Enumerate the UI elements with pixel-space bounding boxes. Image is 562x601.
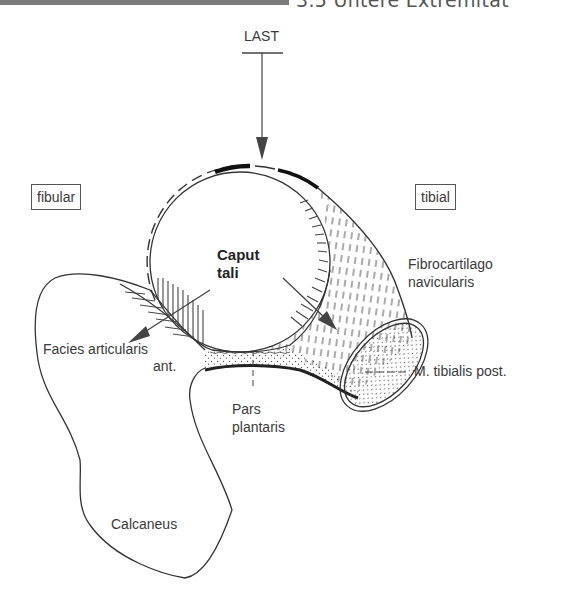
load-label: LAST bbox=[244, 28, 279, 45]
load-arrow bbox=[242, 53, 283, 160]
tibialis-label: M. tibialis post. bbox=[414, 363, 507, 380]
calcaneus-label: Calcaneus bbox=[111, 516, 177, 533]
tibial-side-label: tibial bbox=[415, 184, 456, 210]
talus-joint-diagram bbox=[0, 0, 562, 601]
fibular-side-label: fibular bbox=[31, 184, 81, 210]
fibrocartilago-label-line2: navicularis bbox=[408, 274, 474, 291]
facies-articularis-label-line1: Facies articularis bbox=[43, 341, 148, 358]
fibrocartilago-label-line1: Fibrocartilago bbox=[408, 256, 493, 273]
caput-tali-label-line2: tali bbox=[217, 264, 239, 282]
pars-plantaris-label-line1: Pars bbox=[232, 401, 261, 418]
pars-plantaris-label-line2: plantaris bbox=[232, 419, 285, 436]
facies-articularis-label-line2: ant. bbox=[153, 358, 176, 375]
caput-tali-label-line1: Caput bbox=[217, 246, 260, 264]
